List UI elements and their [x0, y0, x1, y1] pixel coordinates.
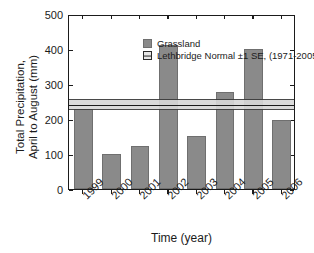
legend-label-lethbridge-normal: Lethbridge Normal ±1 SE, (1971-2005)	[157, 50, 314, 61]
x-tick-top-2003	[196, 15, 197, 19]
x-axis-tick-labels: 19992000200120022003200420052006	[68, 193, 295, 233]
x-tick-top-2002	[167, 15, 168, 19]
chart-legend: Grassland Lethbridge Normal ±1 SE, (1971…	[143, 38, 314, 62]
y-tick-label-500: 500	[45, 9, 63, 21]
legend-label-grassland: Grassland	[157, 38, 200, 49]
reference-band-mean-line	[69, 105, 294, 106]
y-tick-label-0: 0	[57, 184, 63, 196]
x-tick-top-1999	[82, 15, 83, 19]
x-tick-top-2001	[139, 15, 140, 19]
y-axis-title-line2: April to August (mm)	[27, 27, 40, 187]
precipitation-bar-chart-figure: 0 100 200 300 400 500 Total Precipitatio…	[0, 0, 314, 253]
plot-area: Grassland Lethbridge Normal ±1 SE, (1971…	[68, 15, 295, 190]
x-axis-ticks-top	[68, 15, 295, 20]
legend-swatch-band-icon	[143, 51, 152, 60]
legend-entry-grassland: Grassland	[143, 38, 314, 49]
x-tick-top-2006	[281, 15, 282, 19]
x-axis-title: Time (year)	[68, 231, 295, 245]
y-axis-title: Total Precipitation, April to August (mm…	[14, 27, 40, 187]
y-axis-title-line1: Total Precipitation,	[14, 27, 27, 187]
y-tick-label-100: 100	[45, 149, 63, 161]
x-tick-top-2005	[252, 15, 253, 19]
legend-swatch-square-icon	[143, 39, 152, 48]
x-tick-top-2004	[224, 15, 225, 19]
x-tick-top-2000	[111, 15, 112, 19]
legend-entry-lethbridge-normal: Lethbridge Normal ±1 SE, (1971-2005)	[143, 50, 314, 61]
y-tick-label-300: 300	[45, 79, 63, 91]
y-tick-label-200: 200	[45, 114, 63, 126]
y-tick-label-400: 400	[45, 44, 63, 56]
